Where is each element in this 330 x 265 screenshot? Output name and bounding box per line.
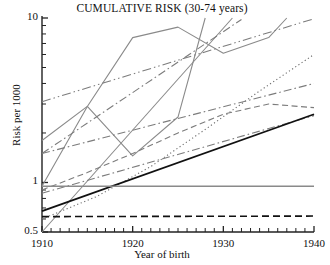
x-tick-label: 1930 <box>199 237 247 249</box>
series-steep-rise-line <box>42 18 232 232</box>
series-dash-dot-upper-mid <box>42 83 314 153</box>
y-tick-label: 10 <box>4 10 38 22</box>
series-jagged-cohort-trace <box>42 18 287 186</box>
series-zigzag-dip-trace <box>42 18 205 156</box>
series-mid-dash-dot-steep <box>42 19 241 153</box>
x-tick-label: 1910 <box>18 237 66 249</box>
x-tick-label: 1920 <box>109 237 157 249</box>
axis-lines <box>42 16 314 232</box>
x-tick-label: 1940 <box>290 237 330 249</box>
y-tick-label: 0.5 <box>4 224 38 236</box>
series-black-solid-trend <box>42 114 314 211</box>
x-axis-ticks <box>42 226 314 232</box>
series-black-dashed-reference <box>42 216 314 217</box>
y-axis-ticks <box>42 18 48 232</box>
series-upper-dash-dot-dot <box>42 19 314 102</box>
series-layer <box>42 18 314 232</box>
series-lower-dash-dot <box>42 116 314 194</box>
y-tick-label: 1 <box>4 174 38 186</box>
